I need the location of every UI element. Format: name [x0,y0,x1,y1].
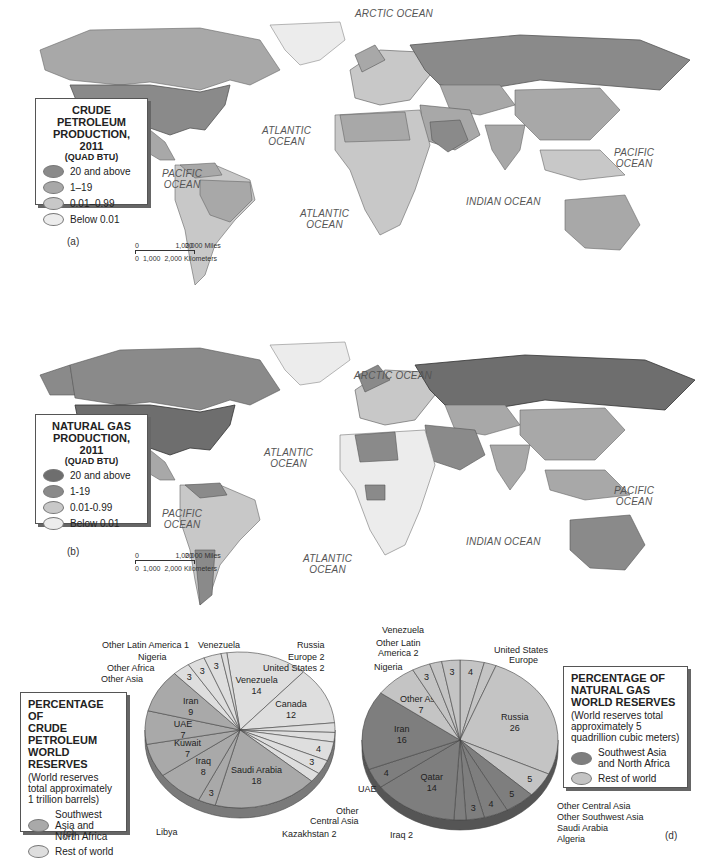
label-europe: Europe 2 [288,652,325,662]
label-europe: Europe [509,655,538,665]
petroleum-reserves-legend: PERCENTAGE OFCRUDE PETROLEUMWORLD RESERV… [20,692,127,832]
canada-region [40,28,280,90]
swatch-high-icon [43,165,64,178]
svg-text:14: 14 [252,686,262,696]
svg-text:3: 3 [187,672,192,682]
gas-production-legend: NATURAL GASPRODUCTION, 2011 (QUAD BTU) 2… [35,414,148,524]
legend-note: (World reserves total approximately 1 tr… [28,772,119,805]
pacific-ocean-label-east: PACIFICOCEAN [614,485,654,507]
legend-item-mid: 1-19 [43,485,140,498]
legend-item-none: Below 0.01 [43,213,140,226]
svg-text:Russia: Russia [501,712,529,722]
svg-text:Iraq: Iraq [196,756,212,766]
svg-text:7: 7 [181,730,186,740]
label-iraq: Iraq 2 [390,830,413,840]
svg-text:Iran: Iran [394,724,410,734]
svg-text:14: 14 [427,783,437,793]
pacific-ocean-label-west: PACIFICOCEAN [162,508,202,530]
svg-text:4: 4 [489,799,494,809]
legend-item-high: 20 and above [43,165,140,178]
legend-title: CRUDE PETROLEUMPRODUCTION, 2011 [43,104,140,152]
swatch-mid-icon [43,485,64,498]
greenland-region [270,22,345,65]
china-region [515,88,620,140]
north-africa-region [340,112,410,142]
svg-text:5: 5 [527,774,532,784]
panel-label-a: (a) [67,236,79,247]
swatch-swna-icon [571,752,592,765]
svg-text:3: 3 [471,803,476,813]
russia-region [415,355,695,410]
southeast-asia-region [540,150,625,180]
indian-ocean-label: INDIAN OCEAN [466,536,541,547]
legend-item-swna: Southwest Asia and North Africa [571,747,680,769]
svg-text:3: 3 [450,667,455,677]
legend-subtitle: (QUAD BTU) [43,152,140,162]
gas-reserves-legend: PERCENTAGE OFNATURAL GASWORLD RESERVES (… [563,666,688,788]
swatch-rest-icon [28,845,49,858]
label-other-central-asia: Other Central Asia [557,801,631,811]
legend-item-none: Below 0.01 [43,517,140,530]
indian-ocean-label: INDIAN OCEAN [466,196,541,207]
label-other-africa: Other Africa [107,663,155,673]
svg-text:5: 5 [509,789,514,799]
label-united-states: United States 2 [263,663,325,673]
russia-region [410,35,690,90]
svg-text:3: 3 [424,672,429,682]
svg-text:8: 8 [201,767,206,777]
natural-gas-reserves-pie: 4Russia265543Qatar144Iran16Other Asia733 [355,655,565,835]
label-venezuela: Venezuela [382,625,424,635]
india-region [490,445,530,490]
legend-note: (World reserves total approximately 5 qu… [571,710,680,743]
swatch-low-icon [43,501,64,514]
australia-region [570,515,645,570]
label-united-states: United States [494,645,548,655]
scale-bar-b: 01,000 2,000 Miles 01,0002,000 Kilometer… [135,552,245,572]
label-saudi-arabia: Saudi Arabia [557,823,608,833]
scale-bar-a: 01,000 2,000 Miles 01,0002,000 Kilometer… [135,242,245,262]
svg-text:4: 4 [468,667,473,677]
svg-text:7: 7 [419,705,424,715]
panel-label-d: (d) [665,830,677,841]
legend-item-rest: Rest of world [28,845,119,858]
panel-label-b: (b) [67,546,79,557]
swatch-low-icon [43,197,64,210]
south-america-region [180,485,260,605]
alaska-region [40,365,75,395]
label-kazakhstan: Kazakhstan 2 [282,829,337,839]
svg-text:Kuwait: Kuwait [174,738,202,748]
label-other-latin-america: Other LatinAmerica 2 [376,638,421,658]
atlantic-ocean-label-north: ATLANTICOCEAN [264,447,313,469]
swatch-none-icon [43,517,64,530]
pacific-ocean-label-east: PACIFICOCEAN [614,147,654,169]
swatch-none-icon [43,213,64,226]
svg-text:12: 12 [286,710,296,720]
atlantic-ocean-label-north: ATLANTICOCEAN [262,125,311,147]
label-other-asia: Other Asia [101,674,143,684]
label-uae: UAE [358,784,377,794]
svg-text:UAE: UAE [174,719,193,729]
legend-item-low: 0.01–0.99 [43,197,140,210]
svg-text:26: 26 [510,723,520,733]
legend-title: NATURAL GASPRODUCTION, 2011 [43,420,140,456]
label-algeria: Algeria [557,834,585,844]
svg-text:Iran: Iran [183,696,199,706]
legend-item-rest: Rest of world [571,772,680,785]
swatch-swna-icon [28,819,49,832]
legend-item-mid: 1–19 [43,181,140,194]
legend-title: PERCENTAGE OFNATURAL GASWORLD RESERVES [571,672,680,708]
panel-label-c: (c) [63,828,75,839]
label-nigeria: Nigeria [138,652,167,662]
greenland-region [270,342,350,385]
pacific-ocean-label-west: PACIFICOCEAN [162,168,202,190]
label-other-central-asia: OtherCentral Asia [310,806,359,826]
china-region [520,408,625,460]
svg-text:Canada: Canada [275,699,307,709]
arctic-ocean-label: ARCTIC OCEAN [355,8,433,19]
swatch-rest-icon [571,772,592,785]
arctic-ocean-label: ARCTIC OCEAN [354,370,432,381]
atlantic-ocean-label-south: ATLANTICOCEAN [303,553,352,575]
label-other-southwest-asia: Other Southwest Asia [557,812,644,822]
svg-text:Qatar: Qatar [420,772,443,782]
svg-text:4: 4 [384,768,389,778]
